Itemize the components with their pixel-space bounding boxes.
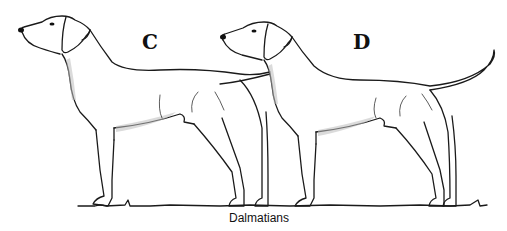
label-c: C <box>142 30 158 54</box>
label-d: D <box>353 30 370 54</box>
ground-line <box>78 200 487 206</box>
caption: Dalmatians <box>229 211 289 225</box>
dalmatians-illustration: C D Dalmatians <box>0 0 507 231</box>
line-drawing <box>0 0 507 231</box>
